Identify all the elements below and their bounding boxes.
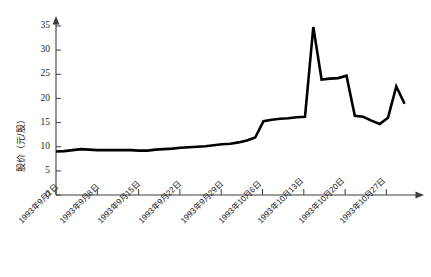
y-tick-labels: 0 5 10 15 20 25 30 35 [41, 20, 51, 199]
y-axis-title: 股价（元/股） [2, 60, 16, 180]
y-tick-label: 35 [41, 20, 51, 30]
y-axis-arrowhead [53, 16, 60, 25]
y-tick-marks [56, 26, 61, 195]
y-tick-label: 30 [41, 44, 51, 54]
y-tick-label: 25 [41, 68, 51, 78]
y-tick-label: 5 [45, 165, 50, 175]
chart-figure: 0 5 10 15 20 25 30 35 股价（元/股） 1993年9月1日 [0, 0, 431, 277]
price-series-line [56, 27, 405, 152]
y-axis-title-text: 股价（元/股） [14, 115, 27, 172]
line-chart-plot: 0 5 10 15 20 25 30 35 [0, 0, 431, 277]
y-tick-label: 10 [41, 141, 51, 151]
y-tick-label: 15 [41, 117, 51, 127]
x-axis-arrowhead [416, 192, 425, 199]
y-tick-label: 20 [41, 93, 51, 103]
y-axis [53, 16, 60, 195]
